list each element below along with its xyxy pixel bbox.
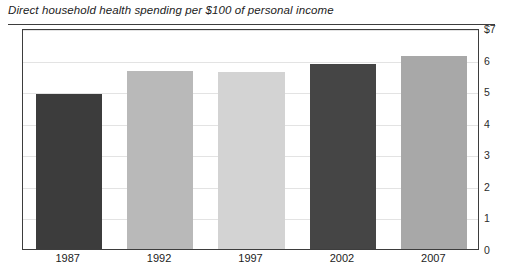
y-tick-label: 6 bbox=[484, 55, 490, 67]
x-tick-label: 2007 bbox=[421, 252, 445, 264]
y-tick-label: 0 bbox=[484, 244, 490, 256]
chart-figure: Direct household health spending per $10… bbox=[0, 0, 522, 278]
bar-series bbox=[23, 30, 478, 249]
y-tick-label: 3 bbox=[484, 149, 490, 161]
y-tick-label: $7 bbox=[484, 23, 496, 35]
y-tick-label: 4 bbox=[484, 118, 490, 130]
x-axis: 19871992199720022007 bbox=[22, 252, 479, 272]
plot-area bbox=[22, 29, 479, 250]
y-axis: 0123456$7 bbox=[484, 29, 520, 250]
title-divider bbox=[8, 24, 495, 25]
bar-1997 bbox=[218, 72, 284, 249]
x-tick-label: 2002 bbox=[330, 252, 354, 264]
x-tick-label: 1987 bbox=[55, 252, 79, 264]
bar-2007 bbox=[401, 56, 467, 249]
x-tick-label: 1997 bbox=[238, 252, 262, 264]
y-tick-label: 1 bbox=[484, 212, 490, 224]
bar-1987 bbox=[36, 94, 102, 249]
x-tick-label: 1992 bbox=[147, 252, 171, 264]
y-tick-label: 5 bbox=[484, 86, 490, 98]
chart-title: Direct household health spending per $10… bbox=[8, 4, 334, 16]
bar-1992 bbox=[127, 71, 193, 249]
bar-2002 bbox=[310, 64, 376, 249]
y-tick-label: 2 bbox=[484, 181, 490, 193]
